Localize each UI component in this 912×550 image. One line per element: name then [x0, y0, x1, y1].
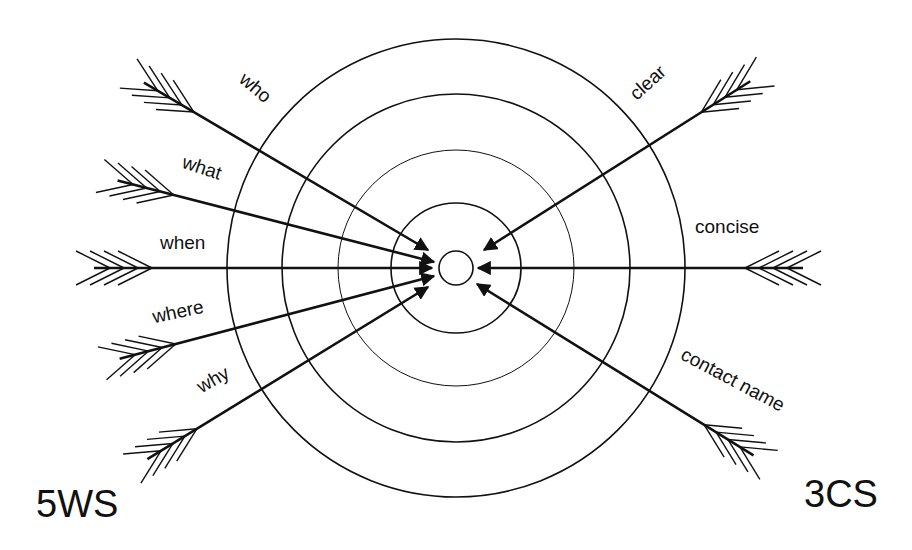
arrows	[76, 57, 821, 483]
feather-line	[125, 340, 162, 348]
arrow-concise	[478, 251, 821, 285]
feather-line	[104, 251, 138, 268]
feather-line	[137, 195, 174, 203]
feather-line	[90, 251, 124, 268]
feather-line	[139, 336, 176, 344]
feather-line	[773, 251, 807, 268]
group-label-5ws: 5WS	[36, 485, 118, 523]
arrow-when	[76, 251, 432, 285]
feather-line	[773, 268, 807, 285]
feather-line	[787, 268, 821, 285]
target-diagram	[0, 0, 912, 550]
label-concise: concise	[695, 217, 759, 236]
feather-line	[76, 251, 110, 268]
arrow-where	[98, 276, 434, 380]
feather-line	[123, 192, 160, 200]
feather-line	[745, 251, 779, 268]
feather-line	[104, 268, 138, 285]
feather-line	[90, 268, 124, 285]
feather-line	[759, 251, 793, 268]
feather-line	[98, 347, 135, 355]
group-label-3cs: 3CS	[804, 475, 878, 513]
feather-line	[109, 188, 146, 196]
feather-line	[759, 268, 793, 285]
feather-line	[96, 185, 133, 193]
label-when: when	[160, 233, 205, 252]
feather-line	[118, 251, 152, 268]
feather-line	[745, 268, 779, 285]
feather-line	[787, 251, 821, 268]
feather-line	[76, 268, 110, 285]
feather-line	[111, 343, 148, 351]
bullseye-ring	[439, 251, 473, 285]
feather-line	[118, 268, 152, 285]
